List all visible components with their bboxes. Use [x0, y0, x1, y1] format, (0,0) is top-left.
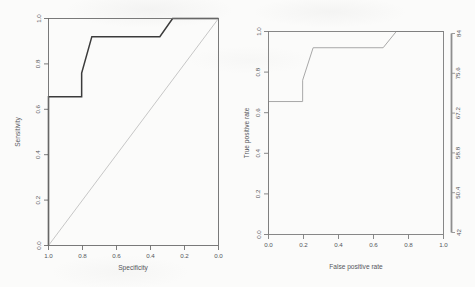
y-axis-title-right: True positive rate: [243, 107, 251, 158]
roc-plot-right-svg: 0.00.20.40.60.81.0 0.00.20.40.60.81.0 42…: [238, 0, 475, 287]
x-tick-label: 0.2: [299, 241, 308, 248]
roc-plot-specificity-panel: 1.00.80.60.40.20.0 0.00.20.40.60.81.0 Sp…: [0, 0, 238, 287]
y-tick-label: 0.2: [35, 195, 42, 204]
roc-plot-left-svg: 1.00.80.60.40.20.0 0.00.20.40.60.81.0 Sp…: [0, 0, 238, 287]
x-tick-label: 0.4: [146, 252, 155, 259]
y-tick-label: 0.8: [35, 59, 42, 68]
x-axis-ticks-left: 1.00.80.60.40.20.0: [44, 246, 223, 260]
plot-border-right: [269, 32, 444, 235]
threshold-axis: 4250.458.867.275.684: [452, 30, 462, 236]
x-tick-label: 0.0: [214, 252, 223, 259]
y-tick-label: 1.0: [255, 27, 262, 36]
y-axis-ticks-right: 0.00.20.40.60.81.0: [255, 27, 269, 239]
y-tick-label: 0.4: [255, 148, 262, 157]
x-tick-label: 0.8: [404, 241, 413, 248]
threshold-tick-label: 58.8: [455, 146, 462, 159]
y-tick-label: 0.6: [255, 108, 262, 117]
figure-canvas: 1.00.80.60.40.20.0 0.00.20.40.60.81.0 Sp…: [0, 0, 475, 287]
threshold-tick-label: 75.6: [455, 67, 462, 80]
y-tick-label: 0.8: [255, 67, 262, 76]
y-tick-label: 1.0: [35, 14, 42, 23]
y-axis-title-left: Sensitivity: [14, 116, 22, 146]
x-tick-label: 0.4: [334, 241, 343, 248]
x-tick-label: 0.8: [78, 252, 87, 259]
x-tick-label: 0.6: [369, 241, 378, 248]
x-tick-label: 1.0: [439, 241, 448, 248]
x-tick-label: 0.6: [112, 252, 121, 259]
x-axis-title-left: Specificity: [118, 264, 148, 272]
roc-plot-fpr-panel: 0.00.20.40.60.81.0 0.00.20.40.60.81.0 42…: [238, 0, 475, 287]
y-tick-label: 0.4: [35, 150, 42, 159]
x-tick-label: 0.0: [264, 241, 273, 248]
roc-curve-line: [269, 32, 444, 235]
threshold-tick-label: 50.4: [455, 186, 462, 199]
x-tick-label: 0.2: [180, 252, 189, 259]
x-tick-label: 1.0: [44, 252, 53, 259]
threshold-tick-label: 84: [455, 30, 462, 37]
roc-curves-right: [269, 32, 444, 235]
y-tick-label: 0.0: [255, 230, 262, 239]
y-tick-label: 0.0: [35, 241, 42, 250]
y-tick-label: 0.6: [35, 104, 42, 113]
threshold-tick-label: 42: [455, 229, 462, 236]
y-tick-label: 0.2: [255, 189, 262, 198]
x-axis-ticks-right: 0.00.20.40.60.81.0: [264, 235, 448, 249]
y-axis-ticks-left: 0.00.20.40.60.81.0: [35, 14, 49, 250]
roc-curve-line: [49, 19, 219, 246]
roc-curves-left: [49, 19, 219, 246]
x-axis-title-right: False positive rate: [329, 263, 383, 271]
threshold-tick-label: 67.2: [455, 107, 462, 120]
